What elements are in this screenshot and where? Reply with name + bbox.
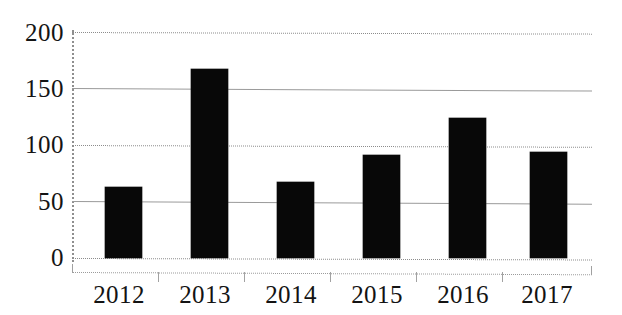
bar-2017 bbox=[530, 152, 567, 258]
y-tick-label-0: 0 bbox=[2, 245, 64, 270]
x-tick-label-2015: 2015 bbox=[330, 281, 424, 308]
bar-2013 bbox=[191, 69, 228, 258]
x-tick-label-2012: 2012 bbox=[72, 281, 166, 308]
gridline-100 bbox=[72, 145, 592, 148]
x-axis-start-cap bbox=[72, 264, 73, 273]
bar-2014 bbox=[277, 182, 314, 258]
bar-chart: 200 150 100 50 0 2012 2013 2014 2015 201… bbox=[0, 0, 622, 315]
y-tick-label-150: 150 bbox=[2, 76, 64, 101]
gridline-200 bbox=[72, 32, 592, 35]
y-tick-label-200: 200 bbox=[2, 20, 64, 45]
bar-2015 bbox=[363, 155, 400, 258]
bar-2012 bbox=[105, 187, 142, 258]
gridline-0 bbox=[72, 258, 592, 260]
bar-2016 bbox=[449, 118, 486, 258]
x-tick-label-2016: 2016 bbox=[416, 281, 510, 308]
x-tick-label-2014: 2014 bbox=[244, 281, 338, 308]
y-tick-label-50: 50 bbox=[2, 189, 64, 214]
x-tick-label-2017: 2017 bbox=[500, 281, 594, 308]
y-tick-label-100: 100 bbox=[2, 132, 64, 157]
gridline-150 bbox=[72, 88, 592, 92]
plot-area bbox=[72, 32, 592, 258]
gridline-50 bbox=[72, 201, 592, 205]
x-axis-end-cap bbox=[591, 266, 592, 275]
y-axis-tick-labels: 200 150 100 50 0 bbox=[0, 0, 64, 315]
x-axis-line bbox=[72, 272, 592, 275]
x-tick-label-2013: 2013 bbox=[158, 281, 252, 308]
